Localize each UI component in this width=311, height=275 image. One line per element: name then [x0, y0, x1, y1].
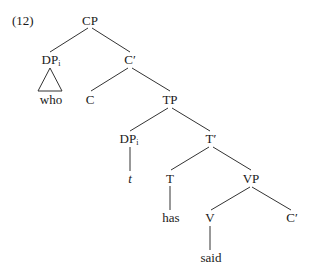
- node-who: who: [40, 93, 62, 107]
- node-t: T: [166, 172, 174, 186]
- tree-edges: [0, 0, 311, 275]
- edge-cbar-tp: [132, 68, 170, 91]
- edge-tbar-vp: [213, 147, 251, 170]
- edge-vp-v: [211, 187, 250, 210]
- triangle-icon: [38, 68, 62, 91]
- node-t-bar: T′: [206, 132, 217, 146]
- node-c-bar-low: C′: [286, 211, 298, 225]
- node-vp: VP: [243, 172, 260, 186]
- edge-tp-tbar: [172, 108, 210, 131]
- edge-cp-dp: [50, 28, 88, 52]
- edge-vp-cbar: [252, 187, 291, 210]
- node-trace: t: [128, 172, 132, 186]
- edge-cp-cbar: [92, 28, 130, 52]
- example-number: (12): [12, 14, 34, 28]
- edge-tbar-t: [171, 147, 209, 170]
- node-cp: CP: [82, 14, 98, 28]
- edge-tp-dp: [130, 108, 168, 131]
- node-c: C: [86, 93, 95, 107]
- node-v: V: [205, 211, 214, 225]
- edge-cbar-c: [91, 68, 128, 91]
- node-has: has: [162, 211, 179, 225]
- node-c-bar-top: C′: [124, 53, 136, 67]
- node-dp-i-low: DPi: [120, 132, 139, 146]
- node-dp-i-top: DPi: [42, 53, 61, 67]
- node-tp: TP: [162, 93, 177, 107]
- node-said: said: [201, 251, 222, 265]
